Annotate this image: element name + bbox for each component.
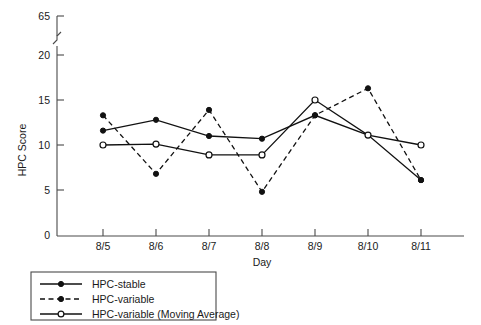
y-axis: 65 20 15 10 5 0 HPC Score <box>16 10 64 241</box>
data-point <box>153 117 158 122</box>
legend-item-hpc-variable[interactable]: HPC-variable <box>40 293 155 305</box>
data-point <box>153 171 158 176</box>
y-tick-label-65: 65 <box>38 10 50 22</box>
x-tick-label-6: 8/11 <box>411 240 431 252</box>
y-tick-label-5: 5 <box>44 184 50 196</box>
y-tick-label-0: 0 <box>44 229 50 241</box>
x-axis: 8/5 8/6 8/7 8/8 8/9 8/10 8/11 Day <box>57 229 464 268</box>
y-tick-label-15: 15 <box>38 94 50 106</box>
x-tick-label-3: 8/8 <box>255 240 270 252</box>
data-point <box>206 152 212 158</box>
legend-item-hpc-stable[interactable]: HPC-stable <box>40 278 146 290</box>
data-point <box>365 86 370 91</box>
legend-label-hpc-variable: HPC-variable <box>92 293 155 305</box>
y-axis-title: HPC Score <box>16 124 28 177</box>
x-tick-label-4: 8/9 <box>308 240 323 252</box>
x-tick-label-1: 8/6 <box>149 240 164 252</box>
data-point <box>100 113 105 118</box>
data-point <box>259 152 265 158</box>
data-point <box>312 113 317 118</box>
data-point <box>153 141 159 147</box>
legend-label-hpc-variable-moving-average: HPC-variable (Moving Average) <box>92 308 239 320</box>
y-tick-label-20: 20 <box>38 49 50 61</box>
series-line <box>103 115 421 180</box>
legend-marker-filled-circle-icon <box>58 296 63 301</box>
data-point <box>259 189 264 194</box>
data-point <box>259 136 264 141</box>
data-point <box>206 107 211 112</box>
data-point <box>312 97 318 103</box>
data-point <box>100 128 105 133</box>
legend-marker-open-circle-icon <box>58 311 64 317</box>
data-point <box>206 133 211 138</box>
legend-label-hpc-stable: HPC-stable <box>92 278 146 290</box>
legend-marker-filled-circle-icon <box>58 281 63 286</box>
chart-figure: 65 20 15 10 5 0 HPC Score 8/5 8/6 8/7 8/… <box>0 0 481 325</box>
x-tick-label-5: 8/10 <box>358 240 379 252</box>
series-hpc-variable-moving-average <box>100 97 424 158</box>
series-line <box>103 100 421 155</box>
data-point <box>418 142 424 148</box>
x-tick-label-0: 8/5 <box>96 240 111 252</box>
series-hpc-stable <box>100 113 423 183</box>
chart-canvas: 65 20 15 10 5 0 HPC Score 8/5 8/6 8/7 8/… <box>0 0 481 325</box>
x-tick-label-2: 8/7 <box>202 240 217 252</box>
data-point <box>100 142 106 148</box>
series-layer <box>100 86 424 195</box>
x-axis-title: Day <box>253 256 272 268</box>
legend-item-hpc-variable-moving-average[interactable]: HPC-variable (Moving Average) <box>40 308 239 320</box>
data-point <box>418 178 423 183</box>
data-point <box>365 132 371 138</box>
y-tick-label-10: 10 <box>38 139 50 151</box>
legend: HPC-stable HPC-variable HPC-variable (Mo… <box>31 272 239 320</box>
